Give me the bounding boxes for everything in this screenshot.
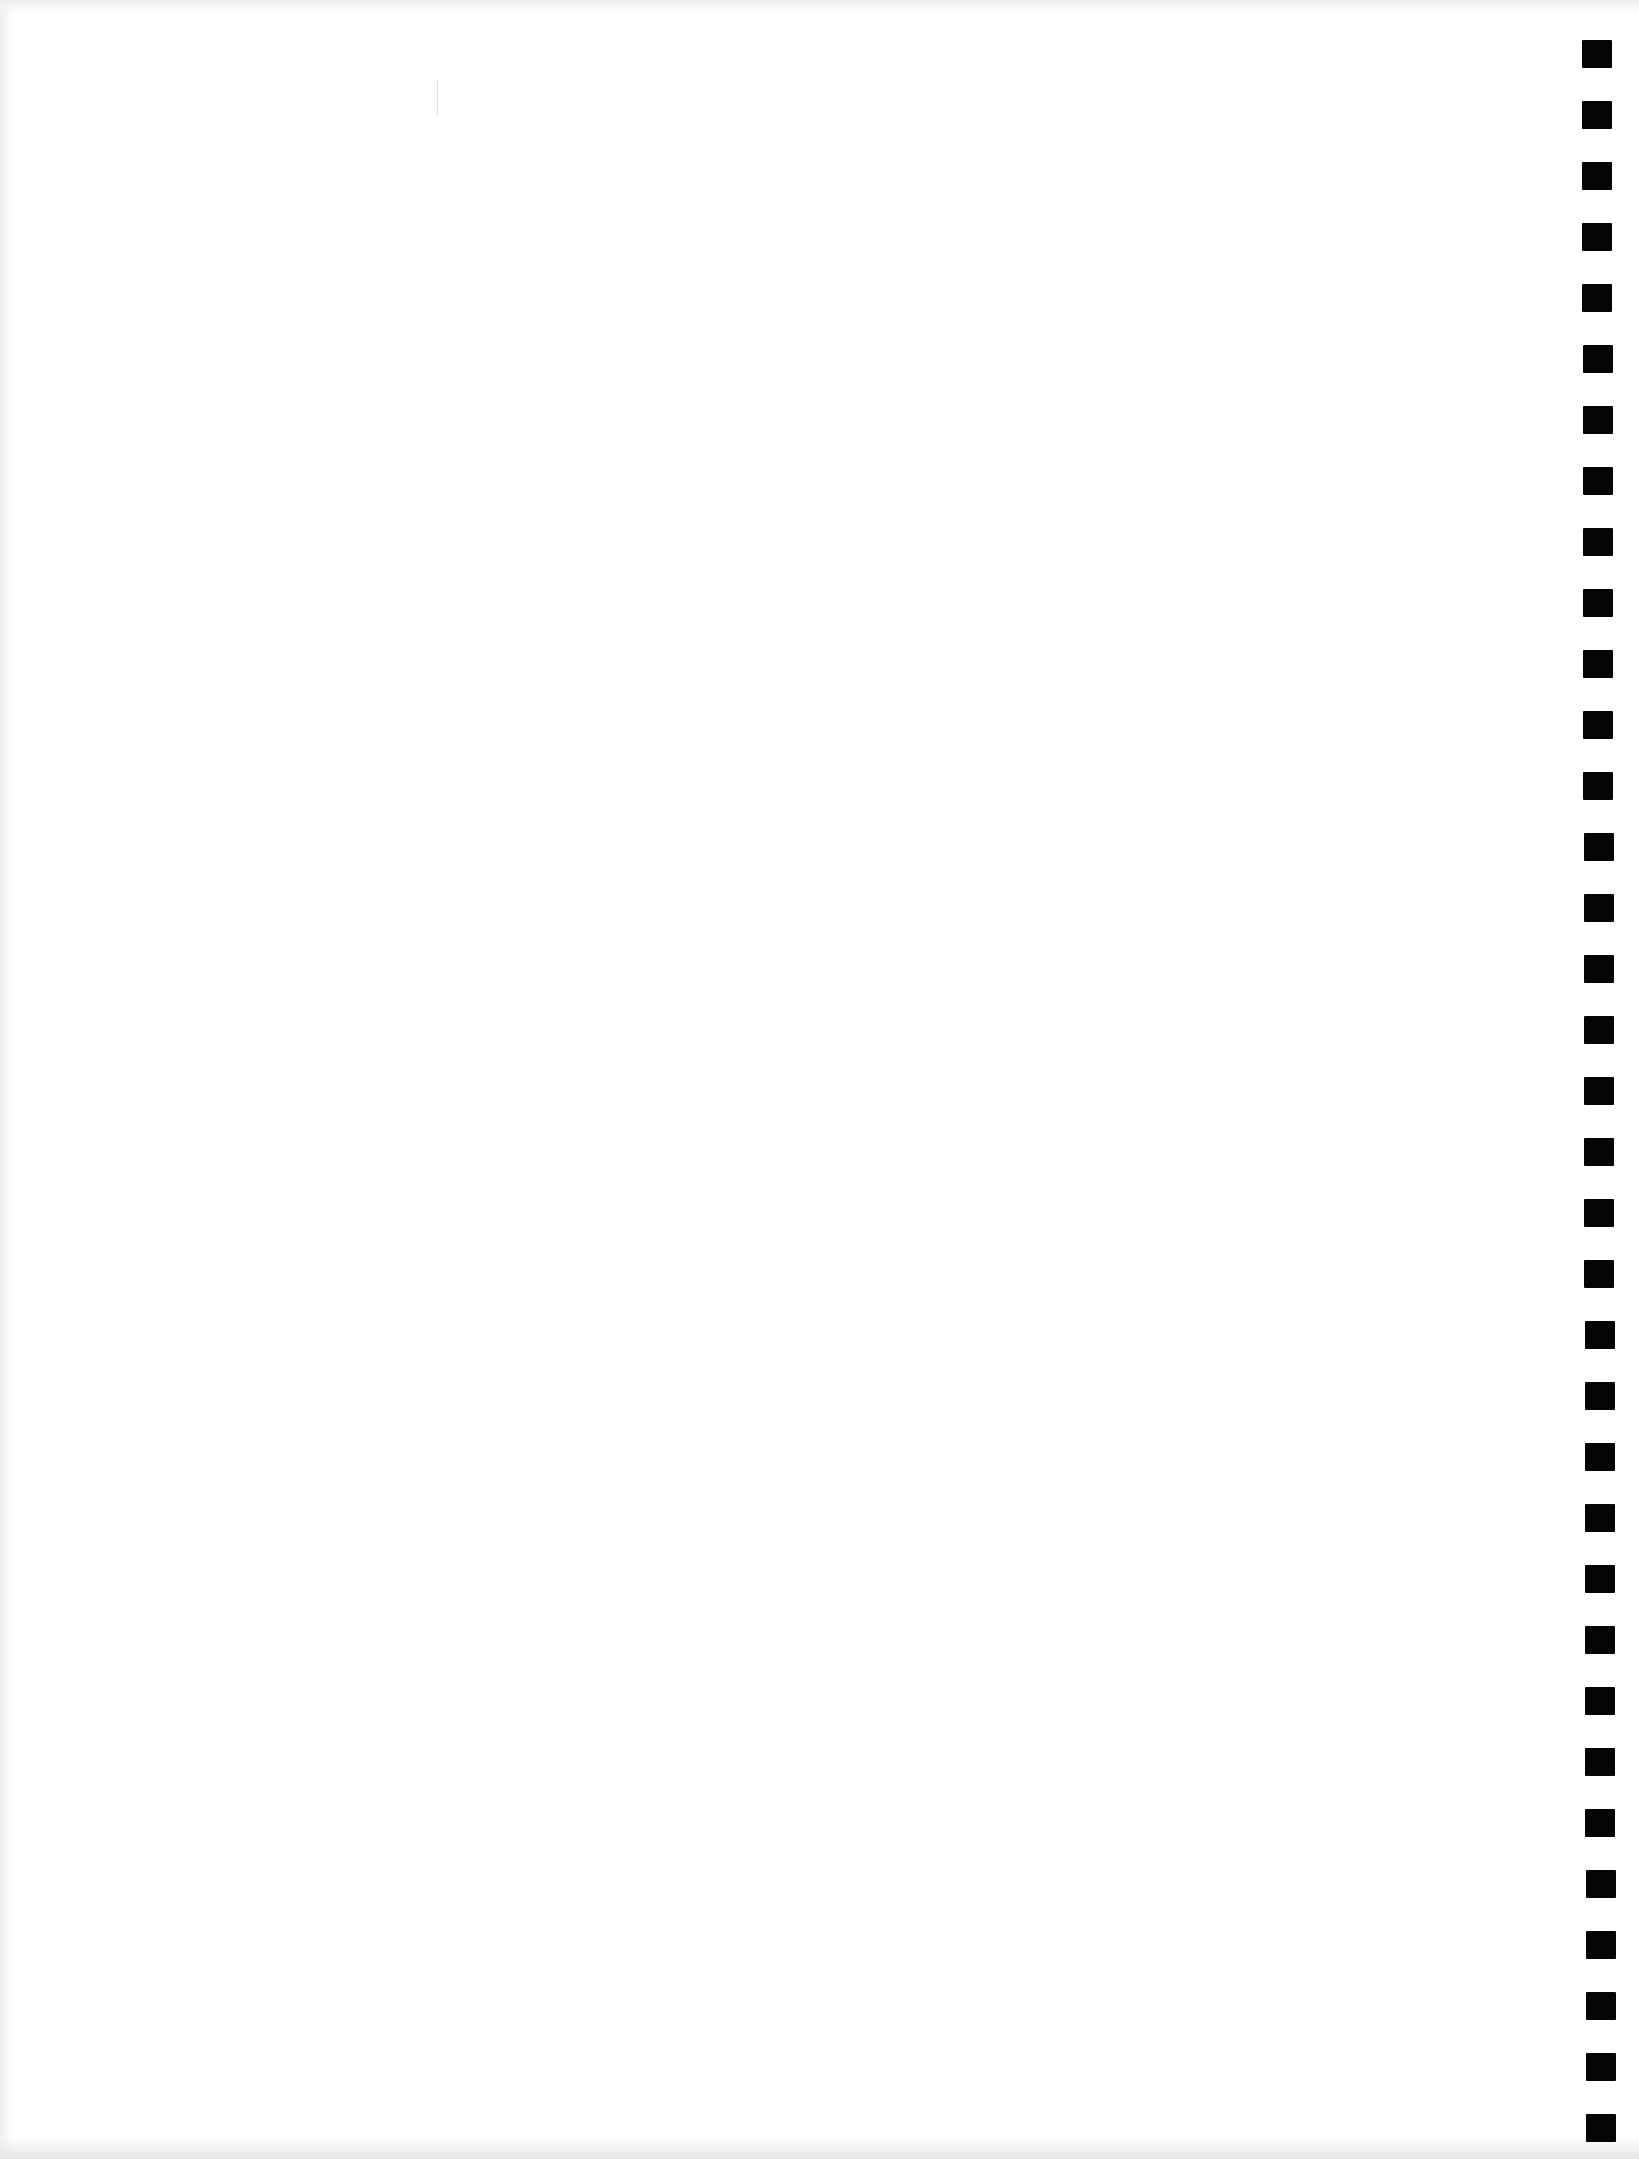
timing-mark [1582, 101, 1612, 129]
timing-mark [1585, 1626, 1615, 1654]
timing-mark [1585, 1809, 1615, 1837]
timing-mark [1584, 1138, 1614, 1166]
timing-mark [1585, 1565, 1615, 1593]
scan-shadow-bottom [0, 2137, 1639, 2159]
timing-mark [1584, 1077, 1614, 1105]
timing-mark [1584, 1199, 1614, 1227]
scan-artifact-line [437, 80, 438, 116]
timing-mark [1585, 1382, 1615, 1410]
timing-mark [1583, 772, 1613, 800]
timing-mark [1585, 1504, 1615, 1532]
timing-mark [1583, 711, 1613, 739]
timing-mark [1583, 467, 1613, 495]
timing-mark [1584, 1260, 1614, 1288]
timing-mark [1583, 650, 1613, 678]
timing-mark [1586, 1870, 1616, 1898]
timing-mark [1584, 894, 1614, 922]
timing-mark [1583, 406, 1613, 434]
timing-mark [1585, 1321, 1615, 1349]
scanned-page [0, 0, 1639, 2159]
timing-mark [1582, 40, 1612, 68]
timing-mark [1583, 345, 1613, 373]
scan-shadow-top [0, 0, 1639, 12]
scan-shadow-left [0, 0, 14, 2159]
timing-mark [1583, 589, 1613, 617]
timing-mark [1582, 223, 1612, 251]
timing-mark [1585, 1687, 1615, 1715]
timing-mark [1586, 1992, 1616, 2020]
timing-mark [1584, 1016, 1614, 1044]
timing-mark [1584, 833, 1614, 861]
timing-mark [1586, 2114, 1616, 2142]
timing-mark [1586, 2053, 1616, 2081]
timing-mark [1586, 1931, 1616, 1959]
timing-mark [1582, 162, 1612, 190]
timing-mark [1582, 284, 1612, 312]
timing-mark [1585, 1748, 1615, 1776]
timing-mark [1584, 955, 1614, 983]
timing-mark [1583, 528, 1613, 556]
timing-mark [1585, 1443, 1615, 1471]
timing-mark-column [1580, 0, 1620, 2159]
